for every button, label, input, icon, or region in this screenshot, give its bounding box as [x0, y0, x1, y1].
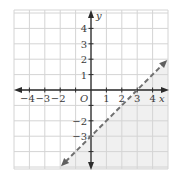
y-tick-label: 3	[81, 39, 87, 50]
y-tick-label: 2	[81, 54, 87, 65]
x-tick-label: 3	[134, 93, 140, 104]
x-tick-label: 2	[119, 93, 125, 104]
origin-label: O	[80, 93, 88, 104]
y-axis-label: y	[95, 10, 102, 21]
y-tick-label: −2	[72, 116, 87, 127]
y-tick-label: 1	[81, 70, 87, 81]
x-tick-label: −3	[35, 93, 50, 104]
shaded-region	[60, 56, 171, 172]
y-axis-up-arrow-icon	[88, 10, 94, 18]
x-tick-label: −4	[20, 93, 35, 104]
x-tick-label: −2	[51, 93, 66, 104]
inequality-graph: −4−3−212344321−2−3 x y O	[0, 0, 176, 177]
y-tick-label: 4	[81, 23, 87, 34]
x-tick-label: 4	[149, 93, 155, 104]
x-tick-label: 1	[103, 93, 109, 104]
x-axis-label: x	[159, 93, 165, 104]
y-tick-label: −3	[72, 131, 87, 142]
